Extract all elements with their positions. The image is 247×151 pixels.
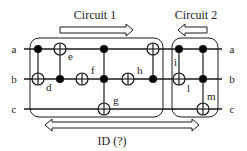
- gate-h-not: [122, 73, 134, 85]
- control-dot-icon: [200, 76, 207, 83]
- wire-label-c-left: c: [12, 103, 17, 115]
- control-dot-icon: [57, 76, 64, 83]
- gate-d-cnot: [32, 46, 44, 86]
- circuit1-box: [30, 38, 163, 117]
- gate-f-not: [76, 73, 88, 85]
- gate-label-i: i: [174, 56, 177, 68]
- control-dot-icon: [200, 46, 207, 53]
- gate-label-m: m: [207, 90, 216, 102]
- identity-double-arrow-icon: [45, 119, 199, 131]
- gate-label-f: f: [91, 64, 95, 76]
- control-dot-icon: [101, 76, 108, 83]
- wire-label-b-right: b: [229, 73, 235, 85]
- gate-label-h: h: [137, 64, 143, 76]
- gate-label-e: e: [68, 50, 73, 62]
- wire-label-c-right: c: [230, 103, 235, 115]
- gate-m-toffoli: [197, 46, 209, 116]
- gate-label-l: l: [187, 82, 190, 94]
- control-dot-icon: [35, 46, 42, 53]
- gate-g-toffoli: [98, 46, 110, 116]
- circuit2-title: Circuit 2: [175, 8, 217, 22]
- circuit1-direction-arrow-icon: [60, 24, 133, 36]
- circuit2-direction-arrow-icon: [178, 24, 207, 36]
- control-dot-icon: [176, 46, 183, 53]
- wire-label-a-left: a: [12, 43, 17, 55]
- gate-label-d: d: [46, 81, 52, 93]
- circuit1-title: Circuit 1: [74, 8, 116, 22]
- reversible-circuit-diagram: Circuit 1 Circuit 2 a b c a b c: [0, 0, 247, 151]
- wire-label-b-left: b: [11, 73, 17, 85]
- gate-label-g: g: [113, 94, 119, 106]
- wire-label-a-right: a: [230, 43, 235, 55]
- gate-e-cnot: [54, 43, 66, 83]
- control-dot-icon: [150, 76, 157, 83]
- control-dot-icon: [101, 46, 108, 53]
- identity-label: ID (?): [98, 134, 127, 148]
- gate-cnot-b-to-a: [147, 43, 159, 83]
